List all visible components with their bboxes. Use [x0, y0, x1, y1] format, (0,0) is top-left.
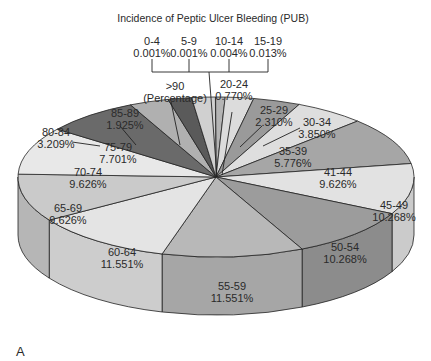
- panel-label: A: [16, 344, 25, 359]
- slice-label-0-4: 0-40.001%: [133, 35, 171, 59]
- slice-label-70-74: 70-749.626%: [69, 166, 107, 190]
- slice-label-20-24: 20-240.770%: [215, 78, 253, 102]
- slice-label-15-19: 15-190.013%: [249, 35, 287, 59]
- pie-chart: 0-40.001%5-90.001%10-140.004%15-190.013%…: [0, 0, 431, 361]
- slice-label-10-14: 10-140.004%: [210, 35, 248, 59]
- chart-title: Incidence of Peptic Ulcer Bleeding (PUB): [117, 12, 308, 24]
- slice-label-35-39: 35-395.776%: [274, 145, 312, 169]
- slice-label-25-29: 25-292.310%: [255, 104, 293, 128]
- slice-label-85-89: 85-891.925%: [106, 107, 144, 131]
- slice-label-65-69: 65-699.626%: [49, 202, 87, 226]
- slice-label-75-79: 75-797.701%: [99, 141, 137, 165]
- slice-label-30-34: 30-343.850%: [298, 116, 336, 140]
- slice-label-80-84: 80-843.209%: [37, 126, 75, 150]
- slice-label-5-9: 5-90.001%: [170, 35, 208, 59]
- slice-label-gt90: >90(Percentage): [143, 80, 207, 104]
- slice-label-41-44: 41-449.626%: [319, 166, 357, 190]
